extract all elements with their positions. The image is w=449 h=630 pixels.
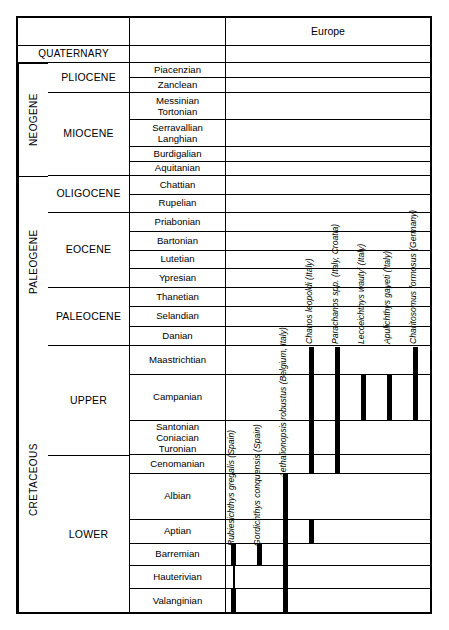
range-aptian — [226, 520, 430, 544]
stage-albian: Albian — [130, 474, 226, 520]
header-region-europe: Europe — [226, 18, 430, 46]
period-quaternary: QUATERNARY — [18, 46, 130, 63]
stage-campanian: Campanian — [130, 375, 226, 421]
stratigraphic-range-chart: Europe QUATERNARY NEOGENE PLIOCENE MIOCE… — [0, 0, 449, 630]
stage-lutetian: Lutetian — [130, 251, 226, 269]
stage-bartonian: Bartonian — [130, 232, 226, 251]
stage-selandian: Selandian — [130, 307, 226, 327]
stage-aptian: Aptian — [130, 520, 226, 544]
epoch-lower-cretaceous: LOWER — [48, 456, 130, 614]
stage-aquitanian: Aquitanian — [130, 162, 226, 176]
range-valanginian — [226, 589, 430, 614]
stage-cenomanian: Cenomanian — [130, 455, 226, 474]
stage-zanclean: Zanclean — [130, 78, 226, 93]
range-piacenzian — [226, 63, 430, 78]
stage-maastrichtian: Maastrichtian — [130, 346, 226, 375]
range-selandian — [226, 307, 430, 327]
range-thanetian — [226, 288, 430, 307]
range-lutetian — [226, 251, 430, 269]
epoch-miocene: MIOCENE — [48, 93, 130, 176]
range-hauterivian — [226, 566, 430, 589]
stage-thanetian: Thanetian — [130, 288, 226, 307]
header-blank-mid — [130, 18, 226, 46]
epoch-pliocene: PLIOCENE — [48, 63, 130, 93]
range-serravallian-langhian — [226, 120, 430, 147]
range-aquitanian — [226, 162, 430, 176]
stage-valanginian: Valanginian — [130, 589, 226, 614]
range-albian — [226, 474, 430, 520]
range-rupelian — [226, 195, 430, 213]
stage-hauterivian: Hauterivian — [130, 566, 226, 589]
stage-chattian: Chattian — [130, 176, 226, 195]
range-santonian-turonian — [226, 421, 430, 455]
range-burdigalian — [226, 147, 430, 162]
range-campanian — [226, 375, 430, 421]
range-quaternary — [226, 46, 430, 63]
epoch-eocene: EOCENE — [48, 213, 130, 288]
range-chattian — [226, 176, 430, 195]
stage-rupelian: Rupelian — [130, 195, 226, 213]
range-messinian-tortonian — [226, 93, 430, 120]
stage-serravallian-langhian: Serravallian Langhian — [130, 120, 226, 147]
chart-frame: Europe QUATERNARY NEOGENE PLIOCENE MIOCE… — [16, 16, 432, 614]
stage-ypresian: Ypresian — [130, 269, 226, 288]
range-cenomanian — [226, 455, 430, 474]
epoch-upper-cretaceous: UPPER — [48, 346, 130, 456]
header-blank-left — [18, 18, 130, 46]
range-ypresian — [226, 269, 430, 288]
range-barremian — [226, 544, 430, 566]
stage-quaternary-blank — [130, 46, 226, 63]
stage-burdigalian: Burdigalian — [130, 147, 226, 162]
range-priabonian — [226, 213, 430, 232]
stage-santonian-coniacian-turonian: Santonian Coniacian Turonian — [130, 421, 226, 455]
range-zanclean — [226, 78, 430, 93]
period-cretaceous: CRETACEOUS — [18, 346, 48, 614]
range-danian — [226, 327, 430, 346]
period-neogene: NEOGENE — [18, 63, 48, 176]
stage-piacenzian: Piacenzian — [130, 63, 226, 78]
epoch-oligocene: OLIGOCENE — [48, 176, 130, 213]
stage-priabonian: Priabonian — [130, 213, 226, 232]
range-maastrichtian — [226, 346, 430, 375]
period-paleogene: PALEOGENE — [18, 176, 48, 346]
stage-messinian-tortonian: Messinian Tortonian — [130, 93, 226, 120]
stage-barremian: Barremian — [130, 544, 226, 566]
epoch-paleocene: PALEOCENE — [48, 288, 130, 346]
stage-danian: Danian — [130, 327, 226, 346]
range-bartonian — [226, 232, 430, 251]
